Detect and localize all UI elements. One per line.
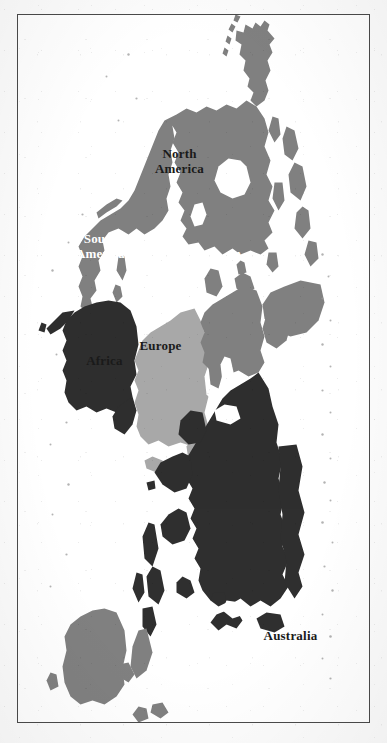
- label-north-america-line2: America: [155, 161, 204, 176]
- map-page: Asia Australia Europe Africa North Ameri…: [0, 0, 387, 743]
- map-rotation-wrapper: Asia Australia Europe Africa North Ameri…: [19, 14, 369, 723]
- world-map-svg: Asia Australia Europe Africa North Ameri…: [19, 14, 369, 723]
- label-africa-text: Africa: [86, 353, 123, 368]
- label-europe: Europe: [139, 338, 181, 353]
- label-south-america-line2: America: [76, 246, 125, 261]
- label-australia-text: Australia: [264, 628, 318, 643]
- label-south-america-line1: South: [84, 231, 118, 246]
- label-asia: Asia: [234, 248, 260, 263]
- map-frame-border: Asia Australia Europe Africa North Ameri…: [17, 14, 370, 723]
- label-north-america-line1: North: [162, 146, 197, 161]
- label-asia-text: Asia: [234, 248, 260, 263]
- label-australia: Australia: [264, 628, 318, 643]
- label-europe-text: Europe: [139, 338, 181, 353]
- label-africa: Africa: [86, 353, 123, 368]
